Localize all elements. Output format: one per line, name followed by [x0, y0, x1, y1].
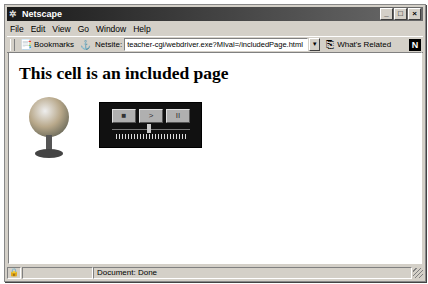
bookmarks-icon[interactable]: 📑 — [20, 39, 32, 50]
netscape-app-icon: ✲ — [9, 9, 19, 19]
maximize-button[interactable]: □ — [394, 8, 407, 20]
whats-related-icon[interactable]: ⎘ — [326, 39, 334, 51]
menu-file[interactable]: File — [10, 24, 24, 34]
security-lock-icon[interactable]: 🔒 — [7, 267, 21, 279]
globe-ball — [29, 97, 69, 137]
resize-grip[interactable] — [413, 268, 423, 278]
title-bar: ✲ Netscape _ □ × — [7, 7, 423, 21]
netsite-icon[interactable]: ⚓ — [80, 40, 91, 50]
menu-window[interactable]: Window — [96, 24, 126, 34]
volume-ticks — [116, 134, 186, 139]
bookmarks-button[interactable]: Bookmarks — [34, 40, 74, 49]
globe-image — [27, 97, 71, 159]
pause-button[interactable]: II — [166, 109, 190, 123]
location-toolbar: 📑 Bookmarks ⚓ Netsite: teacher-cgi/webdr… — [7, 36, 423, 53]
menu-bar: File Edit View Go Window Help — [7, 22, 423, 35]
toolbar-grip[interactable] — [10, 39, 15, 51]
url-dropdown-button[interactable]: ▼ — [309, 38, 320, 51]
progress-cell — [22, 267, 93, 279]
browser-window: ✲ Netscape _ □ × File Edit View Go Windo… — [4, 4, 426, 282]
menu-edit[interactable]: Edit — [31, 24, 46, 34]
close-button[interactable]: × — [408, 8, 421, 20]
window-title: Netscape — [22, 9, 62, 19]
volume-slider-thumb[interactable] — [147, 124, 151, 133]
status-text: Document: Done — [93, 267, 412, 279]
stop-button[interactable]: ■ — [112, 109, 136, 123]
menu-view[interactable]: View — [52, 24, 70, 34]
menu-go[interactable]: Go — [78, 24, 89, 34]
page-content: This cell is an included page ■ > II — [8, 52, 422, 264]
status-bar: 🔒 Document: Done — [7, 267, 423, 279]
netscape-logo[interactable]: N — [409, 39, 421, 51]
menu-help[interactable]: Help — [133, 24, 150, 34]
globe-base — [35, 149, 63, 158]
url-input[interactable]: teacher-cgi/webdriver.exe?MIval=/include… — [124, 38, 308, 51]
whats-related-button[interactable]: What's Related — [337, 40, 391, 49]
minimize-button[interactable]: _ — [380, 8, 393, 20]
media-player: ■ > II — [99, 102, 202, 148]
volume-track[interactable] — [112, 129, 190, 130]
netsite-label: Netsite: — [95, 40, 122, 49]
page-heading: This cell is an included page — [19, 63, 229, 84]
play-button[interactable]: > — [139, 109, 163, 123]
